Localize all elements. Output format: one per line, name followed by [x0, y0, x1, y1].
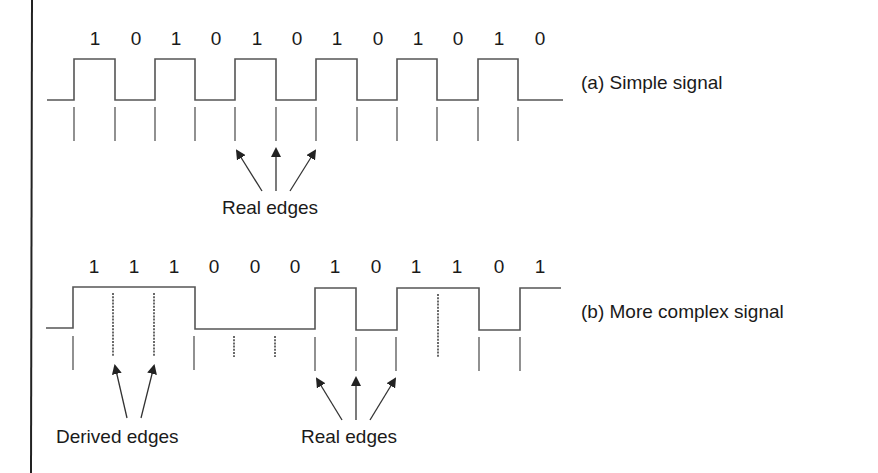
bit-label: 0 [535, 28, 546, 49]
bit-label: 0 [209, 256, 220, 277]
bit-label: 0 [453, 28, 464, 49]
panel-a-edge-ticks [74, 107, 518, 141]
bit-label: 0 [292, 28, 303, 49]
panel-a-waveform [47, 59, 563, 100]
bit-label: 1 [252, 28, 263, 49]
panel-b-derived-edge-arrows [115, 366, 154, 418]
bit-label: 1 [129, 256, 140, 277]
bit-label: 0 [373, 28, 384, 49]
panel-a-simple-signal: 1 0 1 0 1 0 1 0 1 0 1 0 [47, 28, 723, 218]
panel-a-bit-labels: 1 0 1 0 1 0 1 0 1 0 1 0 [90, 28, 546, 49]
panel-b-waveform [46, 287, 561, 330]
panel-a-caption: (a) Simple signal [581, 72, 723, 93]
panel-b-real-edge-arrows [317, 378, 395, 420]
bit-label: 1 [332, 28, 343, 49]
bit-label: 1 [330, 256, 341, 277]
bit-label: 1 [452, 256, 463, 277]
panel-b-real-edge-ticks [73, 336, 520, 371]
bit-label: 0 [371, 256, 382, 277]
bit-label: 0 [250, 256, 261, 277]
bit-label: 0 [494, 256, 505, 277]
panel-b-derived-edge-ticks [113, 293, 438, 358]
arrow-icon [290, 151, 315, 191]
arrow-icon [141, 366, 154, 418]
bit-label: 1 [90, 28, 101, 49]
bit-label: 0 [211, 28, 222, 49]
arrow-icon [237, 151, 262, 191]
diagram-svg: 1 0 1 0 1 0 1 0 1 0 1 0 [0, 0, 878, 473]
panel-a-real-edges-label: Real edges [222, 197, 318, 218]
signal-edges-diagram: 1 0 1 0 1 0 1 0 1 0 1 0 [0, 0, 878, 473]
bit-label: 0 [290, 256, 301, 277]
bit-label: 1 [413, 28, 424, 49]
bit-label: 1 [171, 28, 182, 49]
panel-b-bit-labels: 1 1 1 0 0 0 1 0 1 1 0 1 [89, 256, 546, 277]
arrow-icon [317, 379, 342, 420]
panel-a-real-edge-arrows [237, 149, 315, 191]
arrow-icon [115, 366, 127, 418]
bit-label: 1 [411, 256, 422, 277]
panel-b-complex-signal: 1 1 1 0 0 0 1 0 1 1 0 1 [46, 256, 784, 447]
left-border-line [31, 0, 32, 473]
panel-b-real-edges-label: Real edges [301, 426, 397, 447]
panel-b-caption: (b) More complex signal [581, 301, 784, 322]
bit-label: 1 [494, 28, 505, 49]
panel-b-derived-edges-label: Derived edges [56, 426, 179, 447]
bit-label: 1 [169, 256, 180, 277]
arrow-icon [370, 379, 395, 420]
bit-label: 1 [89, 256, 100, 277]
bit-label: 1 [535, 256, 546, 277]
bit-label: 0 [131, 28, 142, 49]
